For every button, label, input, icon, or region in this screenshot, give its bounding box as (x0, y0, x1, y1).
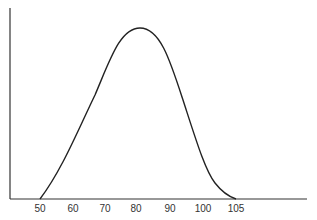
x-tick-label: 100 (195, 203, 212, 214)
x-tick-label: 80 (130, 203, 141, 214)
x-tick-label: 90 (164, 203, 175, 214)
x-tick-label: 50 (34, 203, 45, 214)
bell-curve-chart (0, 0, 317, 220)
x-tick-label: 70 (99, 203, 110, 214)
x-tick-label: 105 (228, 203, 245, 214)
x-tick-label: 60 (67, 203, 78, 214)
distribution-curve (40, 28, 236, 199)
